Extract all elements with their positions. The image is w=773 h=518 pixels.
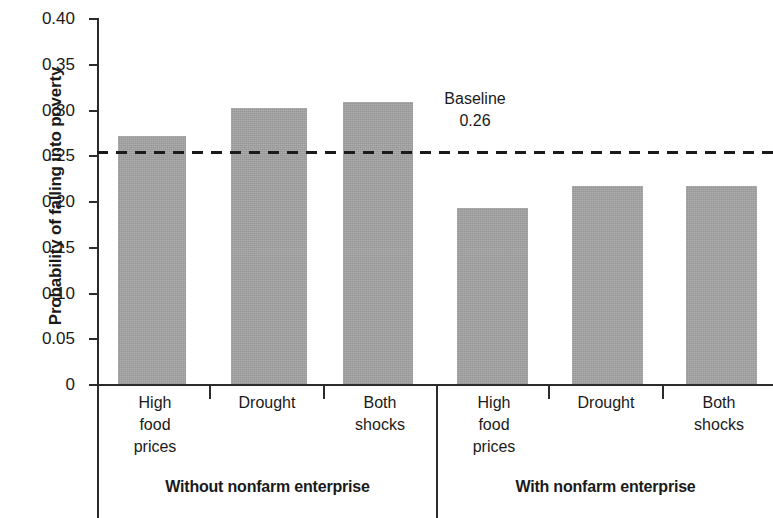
y-tick-mark-0.15 xyxy=(89,247,98,249)
y-tick-mark-0.30 xyxy=(89,110,98,112)
bar-without-both-shocks xyxy=(343,102,413,385)
x-axis-line xyxy=(97,384,773,386)
category-label-with-drought: Drought xyxy=(553,392,659,414)
category-label-with-both-shocks: Both shocks xyxy=(667,392,771,436)
category-label-line1: Both xyxy=(328,392,432,414)
category-label-line2: food xyxy=(449,414,539,436)
y-tick-label-0.35: 0.35 xyxy=(0,56,84,73)
baseline-annotation-title: Baseline xyxy=(410,88,540,110)
group-divider-left xyxy=(97,385,99,518)
category-label-line1: High xyxy=(110,392,200,414)
y-tick-mark-0.40 xyxy=(89,18,98,20)
category-label-without-high-food-prices: High food prices xyxy=(110,392,200,458)
baseline-annotation-value: 0.26 xyxy=(410,110,540,132)
category-separator-tick-2 xyxy=(323,386,325,399)
y-tick-label-0.20: 0.20 xyxy=(0,193,84,210)
bar-chart: Probability of falling into poverty 0.40… xyxy=(0,0,773,518)
group-label-without-nonfarm-enterprise: Without nonfarm enterprise xyxy=(99,478,436,496)
y-tick-mark-0.05 xyxy=(89,338,98,340)
category-separator-tick-1 xyxy=(209,386,211,399)
category-separator-tick-4 xyxy=(662,386,664,399)
bar-without-drought xyxy=(231,108,307,385)
bar-with-high-food-prices xyxy=(457,208,528,385)
category-label-without-drought: Drought xyxy=(214,392,320,414)
y-tick-label-0.10: 0.10 xyxy=(0,285,84,302)
category-label-line1: Both xyxy=(667,392,771,414)
category-label-with-high-food-prices: High food prices xyxy=(449,392,539,458)
category-separator-tick-3 xyxy=(548,386,550,399)
bar-with-both-shocks xyxy=(686,186,757,385)
category-label-line1: Drought xyxy=(214,392,320,414)
y-tick-label-0.40: 0.40 xyxy=(0,10,84,27)
category-label-line2: shocks xyxy=(667,414,771,436)
category-label-without-both-shocks: Both shocks xyxy=(328,392,432,436)
y-tick-label-0.30: 0.30 xyxy=(0,102,84,119)
y-tick-mark-0.25 xyxy=(89,155,98,157)
y-tick-mark-0.10 xyxy=(89,293,98,295)
baseline-reference-line xyxy=(97,151,773,154)
bar-with-drought xyxy=(572,186,643,385)
category-label-line2: shocks xyxy=(328,414,432,436)
group-label-with-nonfarm-enterprise: With nonfarm enterprise xyxy=(438,478,773,496)
baseline-annotation: Baseline 0.26 xyxy=(410,88,540,132)
y-tick-label-0.25: 0.25 xyxy=(0,147,84,164)
category-label-line2: food xyxy=(110,414,200,436)
group-divider-middle xyxy=(436,385,438,518)
category-label-line1: Drought xyxy=(553,392,659,414)
y-tick-label-0.05: 0.05 xyxy=(0,330,84,347)
category-label-line3: prices xyxy=(449,436,539,458)
y-tick-label-0.15: 0.15 xyxy=(0,239,84,256)
y-tick-mark-0.35 xyxy=(89,64,98,66)
category-label-line3: prices xyxy=(110,436,200,458)
y-tick-mark-0.20 xyxy=(89,201,98,203)
category-label-line1: High xyxy=(449,392,539,414)
y-tick-label-0: 0 xyxy=(0,376,84,393)
bar-without-high-food-prices xyxy=(118,136,186,385)
